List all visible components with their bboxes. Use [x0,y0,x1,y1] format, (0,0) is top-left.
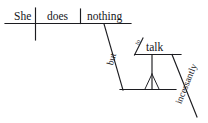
diagram-canvas: She does nothing but to talk incessantly [0,0,208,123]
implied-subject-caret-left [145,74,152,89]
word-infinitive-verb: talk [146,41,163,53]
sentence-diagram: She does nothing but to talk incessantly [0,0,208,123]
word-verb: does [47,10,69,22]
implied-subject-caret-right [152,74,159,89]
word-conjunction: but [105,52,118,67]
word-subject: She [14,10,31,22]
word-direct-object: nothing [87,10,122,23]
